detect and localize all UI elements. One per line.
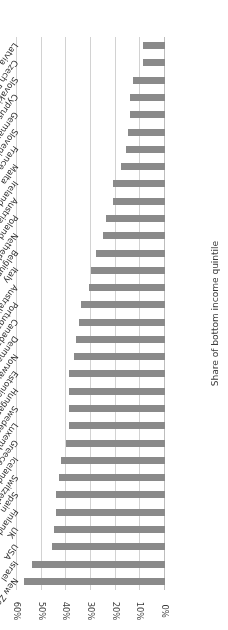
value-axis-tick-label: 30%: [86, 602, 96, 620]
bar: [96, 250, 165, 257]
bar: [24, 578, 165, 585]
bar: [89, 284, 165, 291]
bar: [56, 509, 165, 516]
bar: [91, 267, 165, 274]
bar: [59, 474, 165, 481]
value-axis-tick-label: 50%: [37, 602, 47, 620]
bar: [113, 198, 165, 205]
bar: [113, 180, 165, 187]
bar: [69, 388, 165, 395]
bar: [61, 457, 165, 464]
bar: [79, 319, 165, 326]
gridline: [139, 37, 140, 590]
value-axis-tick-label: 40%: [61, 602, 71, 620]
bar: [52, 543, 165, 550]
bar: [81, 301, 165, 308]
bar: [56, 491, 165, 498]
value-axis-tick-label: 0%: [160, 604, 170, 617]
value-axis-tick-label: 60%: [12, 602, 22, 620]
value-axis-tick-label: 20%: [111, 602, 121, 620]
bar: [130, 94, 165, 101]
chart-canvas: 0%10%20%30%40%50%60% New ZealandIsraelUS…: [0, 0, 228, 630]
bar: [130, 111, 165, 118]
gridline: [41, 37, 42, 590]
bar: [128, 129, 165, 136]
bar: [121, 163, 165, 170]
bar: [103, 232, 165, 239]
gridline: [90, 37, 91, 590]
bar: [76, 336, 165, 343]
gridline: [16, 37, 17, 590]
bar: [54, 526, 165, 533]
bar: [143, 42, 165, 49]
gridline: [115, 37, 116, 590]
bar: [66, 440, 165, 447]
bar: [126, 146, 165, 153]
bar: [32, 561, 165, 568]
value-axis-tick-labels: 0%10%20%30%40%50%60%: [17, 592, 165, 630]
value-axis-title: Share of bottom income quintile: [210, 37, 220, 590]
bar: [143, 59, 165, 66]
bar: [69, 422, 165, 429]
gridline: [65, 37, 66, 590]
gridline: [164, 37, 165, 590]
bar: [69, 370, 165, 377]
value-axis-tick-label: 10%: [135, 602, 145, 620]
bar: [69, 405, 165, 412]
bar: [74, 353, 165, 360]
bar: [133, 77, 165, 84]
bar: [106, 215, 165, 222]
plot-area: [17, 37, 165, 590]
